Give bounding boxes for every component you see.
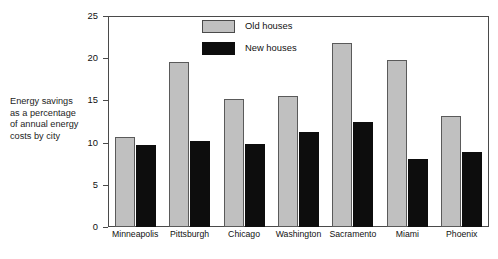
bar-new-houses: [353, 122, 373, 227]
bar-chart-figure: Energy savings as a percentage of annual…: [0, 0, 498, 259]
bar-new-houses: [462, 152, 482, 227]
y-tick-label: 15: [72, 95, 98, 104]
x-tick-label: Phoenix: [427, 229, 497, 240]
bar-old-houses: [115, 137, 135, 227]
legend: Old houses New houses: [202, 19, 332, 63]
bar-new-houses: [408, 159, 428, 227]
y-tick-label: 20: [72, 53, 98, 62]
bar-old-houses: [387, 60, 407, 227]
bar-new-houses: [299, 132, 319, 227]
legend-swatch-old-houses-icon: [202, 20, 235, 33]
y-tick-mark: [103, 227, 108, 228]
legend-item-old-houses: Old houses: [202, 19, 332, 33]
legend-item-new-houses: New houses: [202, 41, 332, 55]
bar-new-houses: [190, 141, 210, 227]
bar-group: [441, 16, 482, 227]
bar-group: [115, 16, 156, 227]
bar-new-houses: [245, 144, 265, 227]
y-tick-label: 0: [72, 222, 98, 231]
y-tick-label: 25: [72, 11, 98, 20]
y-tick-label: 5: [72, 180, 98, 189]
bar-old-houses: [441, 116, 461, 227]
bar-group: [387, 16, 428, 227]
y-tick-label: 10: [72, 138, 98, 147]
legend-label-new-houses: New houses: [245, 43, 297, 53]
bar-new-houses: [136, 145, 156, 227]
legend-swatch-new-houses-icon: [202, 42, 235, 55]
bar-old-houses: [278, 96, 298, 227]
y-axis: 0510152025: [0, 0, 108, 259]
bar-old-houses: [332, 43, 352, 227]
legend-label-old-houses: Old houses: [245, 21, 292, 31]
bar-group: [332, 16, 373, 227]
bar-old-houses: [169, 62, 189, 227]
x-axis-labels: MinneapolisPittsburghChicagoWashingtonSa…: [108, 229, 489, 249]
bar-old-houses: [224, 99, 244, 227]
